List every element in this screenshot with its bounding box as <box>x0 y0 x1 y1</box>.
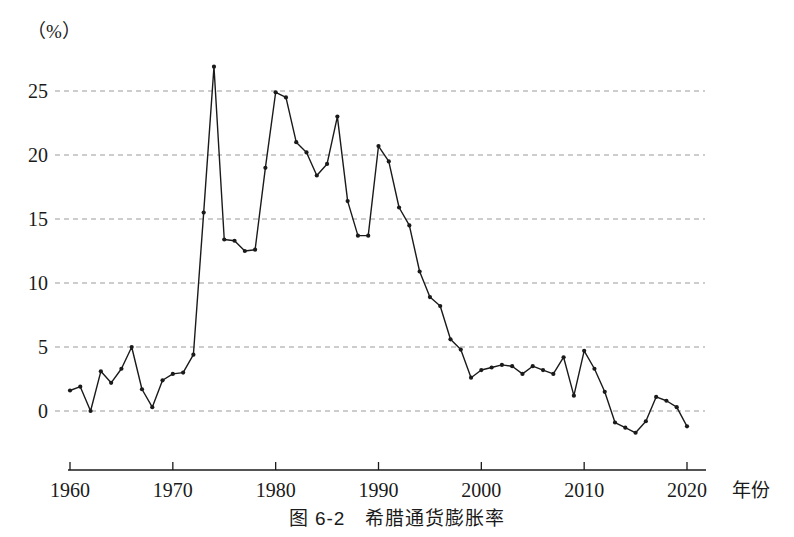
data-point: 1988: 13.7% <box>356 234 360 238</box>
data-point: 1979: 19% <box>263 166 267 170</box>
data-point: 2017: 1.1% <box>654 395 658 399</box>
data-point: 1961: 1.9% <box>78 385 82 389</box>
data-point: 1963: 3.1% <box>99 369 103 373</box>
data-point: 1973: 15.5% <box>202 211 206 215</box>
data-point: 2009: 1.2% <box>572 394 576 398</box>
data-point: 1981: 24.5% <box>284 95 288 99</box>
data-point: 2004: 2.9% <box>520 372 524 376</box>
data-point: 2016: -0.8% <box>644 419 648 423</box>
x-tick-label: 1990 <box>339 480 419 500</box>
data-point: 1998: 4.8% <box>459 347 463 351</box>
y-tick-label: 5 <box>10 337 48 357</box>
data-point: 1997: 5.6% <box>448 337 452 341</box>
data-point: 1996: 8.2% <box>438 304 442 308</box>
data-point: 2005: 3.5% <box>531 364 535 368</box>
gridlines-group <box>55 91 705 411</box>
y-tick-label: 15 <box>10 209 48 229</box>
figure-container: （%） 1960: 1.6%1961: 1.9%1962: 0%1963: 3.… <box>0 0 794 537</box>
data-point: 1974: 26.9% <box>212 65 216 69</box>
x-tick-label: 2020 <box>647 480 727 500</box>
x-tick-label: 2010 <box>544 480 624 500</box>
data-point: 1983: 20.2% <box>304 150 308 154</box>
data-point: 1989: 13.7% <box>366 234 370 238</box>
data-point: 2015: -1.7% <box>633 431 637 435</box>
y-tick-label: 0 <box>10 401 48 421</box>
x-tick-label: 1960 <box>30 480 110 500</box>
data-point: 1975: 13.4% <box>222 237 226 241</box>
data-series-line <box>70 67 687 433</box>
data-point: 1967: 1.7% <box>140 387 144 391</box>
data-point: 1968: 0.3% <box>150 405 154 409</box>
x-tick-label: 1980 <box>236 480 316 500</box>
data-point: 1965: 3.3% <box>119 367 123 371</box>
data-point: 2011: 3.3% <box>592 367 596 371</box>
chart-plot-area: 1960: 1.6%1961: 1.9%1962: 0%1963: 3.1%19… <box>0 0 794 537</box>
y-tick-label: 20 <box>10 145 48 165</box>
data-point: 1993: 14.5% <box>407 223 411 227</box>
data-point: 1969: 2.4% <box>160 378 164 382</box>
x-axis-title: 年份 <box>732 481 770 500</box>
data-point: 2008: 4.2% <box>562 355 566 359</box>
data-point: 1985: 19.3% <box>325 162 329 166</box>
data-point: 1990: 20.7% <box>376 144 380 148</box>
data-point: 1995: 8.9% <box>428 295 432 299</box>
data-point: 2003: 3.5% <box>510 364 514 368</box>
data-point: 1992: 15.9% <box>397 205 401 209</box>
data-point: 1999: 2.6% <box>469 376 473 380</box>
data-point: 1982: 21% <box>294 140 298 144</box>
figure-caption: 图 6-2 希腊通货膨胀率 <box>0 503 794 530</box>
data-point: 1984: 18.4% <box>315 173 319 177</box>
data-point: 1986: 23% <box>335 115 339 119</box>
x-tick-label: 2000 <box>441 480 521 500</box>
data-point: 2019: 0.3% <box>675 405 679 409</box>
data-point: 1962: 0% <box>88 409 92 413</box>
data-point: 1994: 10.9% <box>418 269 422 273</box>
data-point: 1971: 3% <box>181 371 185 375</box>
data-point: 1966: 5% <box>130 345 134 349</box>
data-line-group <box>70 67 687 433</box>
data-point: 1976: 13.3% <box>232 239 236 243</box>
y-tick-label: 25 <box>10 81 48 101</box>
data-points-group: 1960: 1.6%1961: 1.9%1962: 0%1963: 3.1%19… <box>68 65 689 435</box>
data-point: 2000: 3.2% <box>479 368 483 372</box>
data-point: 1978: 12.6% <box>253 248 257 252</box>
data-point: 1960: 1.6% <box>68 388 72 392</box>
data-point: 2002: 3.6% <box>500 363 504 367</box>
data-point: 2020: -1.2% <box>685 424 689 428</box>
data-point: 2007: 2.9% <box>551 372 555 376</box>
x-axis-group <box>68 462 706 470</box>
data-point: 2014: -1.3% <box>623 426 627 430</box>
data-point: 2006: 3.2% <box>541 368 545 372</box>
data-point: 1972: 4.4% <box>191 353 195 357</box>
data-point: 2001: 3.4% <box>490 365 494 369</box>
data-point: 1964: 2.2% <box>109 381 113 385</box>
data-point: 2013: -0.9% <box>613 420 617 424</box>
data-point: 1980: 24.9% <box>274 90 278 94</box>
data-point: 2018: 0.8% <box>664 399 668 403</box>
data-point: 1991: 19.5% <box>387 159 391 163</box>
data-point: 2010: 4.7% <box>582 349 586 353</box>
y-tick-label: 10 <box>10 273 48 293</box>
y-axis-unit-label: （%） <box>27 16 81 43</box>
data-point: 1987: 16.4% <box>346 199 350 203</box>
data-point: 1977: 12.5% <box>243 249 247 253</box>
data-point: 1970: 2.9% <box>171 372 175 376</box>
data-point: 2012: 1.5% <box>603 390 607 394</box>
x-tick-label: 1970 <box>133 480 213 500</box>
